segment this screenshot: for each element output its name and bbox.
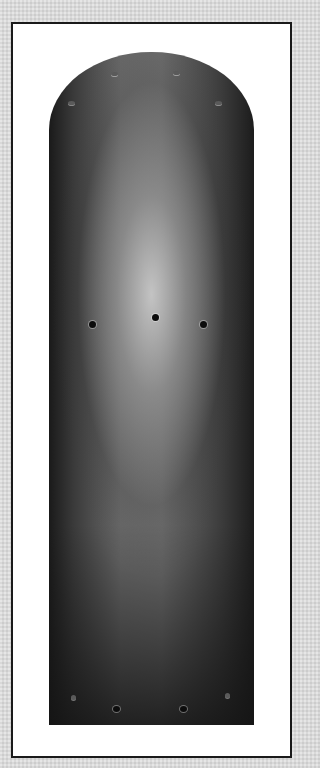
- bottom-hole-1: [71, 695, 76, 700]
- top-stud-2: [173, 71, 180, 75]
- bottom-hole-4: [225, 693, 230, 698]
- top-stud-3: [68, 101, 75, 105]
- bottom-hole-3: [180, 706, 187, 712]
- mounting-hole-center: [152, 314, 159, 321]
- top-stud-1: [111, 72, 118, 76]
- mounting-hole-left: [89, 321, 96, 328]
- photo-frame: [11, 22, 292, 758]
- fan-blade: [49, 52, 254, 725]
- bottom-hole-2: [113, 706, 120, 712]
- mounting-hole-right: [200, 321, 207, 328]
- top-stud-4: [215, 101, 222, 105]
